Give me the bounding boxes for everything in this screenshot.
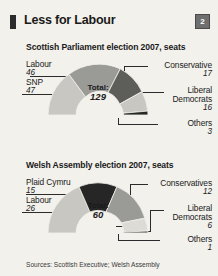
label-labour-1: Labour 46: [26, 60, 51, 78]
label-libdem-2-name-2: Democrats: [172, 213, 212, 222]
label-others-1: Others 3: [187, 119, 212, 137]
label-conservatives-2: Conservatives 12: [160, 179, 212, 197]
label-others-1-value: 3: [187, 128, 212, 137]
label-labour-2-value: 26: [26, 205, 51, 214]
vertical-bar-icon: [10, 15, 16, 29]
label-others-2-value: 1: [187, 244, 212, 253]
label-labour-2: Labour 26: [26, 196, 51, 214]
source-note: Sources: Scottish Executive; Welsh Assem…: [26, 261, 160, 268]
label-conservatives-2-value: 12: [160, 188, 212, 197]
leader-line-ld-2: [150, 210, 164, 211]
chart-1-title: Scottish Parliament election 2007, seats: [26, 42, 185, 52]
header: Less for Labour 2: [10, 14, 210, 34]
label-plaid-cymru-2: Plaid Cymru 15: [26, 178, 71, 196]
label-others-2: Others 1: [187, 235, 212, 253]
label-conservative-1-value: 17: [164, 70, 212, 79]
label-libdem-2: Liberal Democrats 6: [172, 204, 212, 231]
label-libdem-2-value: 6: [172, 222, 212, 231]
label-conservative-1: Conservative 17: [164, 61, 212, 79]
chart-1-donut: [44, 59, 152, 119]
label-libdem-1: Liberal Democrats 16: [172, 86, 212, 113]
leader-line-others-1-v: [118, 118, 119, 125]
chart-welsh-assembly: Welsh Assembly election 2007, seats: [0, 160, 218, 256]
chart-1-svg: [44, 59, 152, 119]
page-title: Less for Labour: [24, 13, 115, 27]
label-snp-1: SNP 47: [26, 78, 43, 96]
leader-line-others-1: [118, 124, 158, 125]
chart-scottish-parliament: Scottish Parliament election 2007, seats: [0, 42, 218, 138]
chart-2-title: Welsh Assembly election 2007, seats: [26, 160, 173, 170]
label-libdem-1-value: 16: [172, 104, 212, 113]
label-snp-1-value: 47: [26, 87, 43, 96]
infographic-page: Less for Labour 2 Scottish Parliament el…: [0, 0, 218, 276]
page-number-badge: 2: [195, 14, 210, 29]
chart-1-slices: [48, 64, 148, 115]
leader-line-others-2: [118, 240, 160, 241]
